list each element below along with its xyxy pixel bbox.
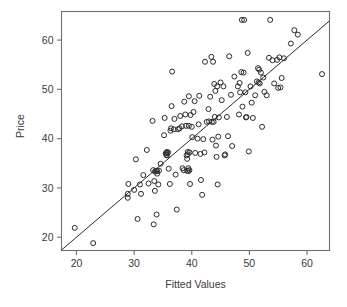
data-point	[219, 98, 224, 103]
data-point	[186, 94, 191, 99]
data-point	[288, 41, 293, 46]
data-point	[196, 122, 201, 127]
data-point	[245, 50, 250, 55]
data-point	[210, 137, 215, 142]
data-point	[156, 182, 161, 187]
data-point	[226, 134, 231, 139]
data-point	[203, 59, 208, 64]
data-point	[260, 124, 265, 129]
data-point	[201, 137, 206, 142]
data-point	[240, 104, 245, 109]
y-tick-label: 60	[42, 34, 54, 46]
data-point	[166, 166, 171, 171]
data-point	[216, 134, 221, 139]
data-points	[72, 17, 324, 245]
data-point	[126, 181, 131, 186]
plot-canvas: 2030405060 2030405060 Fitted Values Pric…	[0, 0, 347, 307]
data-point	[162, 133, 167, 138]
x-tick-label: 50	[244, 257, 256, 269]
data-point	[213, 143, 218, 148]
data-point	[169, 104, 174, 109]
x-tick-label: 40	[186, 257, 198, 269]
y-axis-tick-labels: 2030405060	[42, 34, 54, 243]
data-point	[198, 178, 203, 183]
data-point	[253, 93, 258, 98]
y-tick-label: 40	[42, 132, 54, 144]
data-point	[152, 188, 157, 193]
data-point	[174, 207, 179, 212]
data-point	[224, 114, 229, 119]
data-point	[72, 225, 77, 230]
data-point	[295, 32, 300, 37]
x-axis-title: Fitted Values	[165, 278, 226, 290]
data-point	[292, 28, 297, 33]
y-axis-ticks	[57, 40, 62, 237]
y-tick-label: 30	[42, 182, 54, 194]
data-point	[182, 99, 187, 104]
data-point	[162, 115, 167, 120]
data-point	[206, 107, 211, 112]
data-point	[221, 84, 226, 89]
data-point	[170, 69, 175, 74]
data-point	[139, 191, 144, 196]
data-point	[228, 92, 233, 97]
data-point	[279, 76, 284, 81]
data-point	[209, 54, 214, 59]
data-point	[193, 150, 198, 155]
y-axis-title: Price	[14, 114, 26, 138]
data-point	[188, 112, 193, 117]
data-point	[320, 72, 325, 77]
data-point	[167, 181, 172, 186]
data-point	[191, 110, 196, 115]
data-point	[266, 55, 271, 60]
data-point	[227, 54, 232, 59]
data-point	[154, 212, 159, 217]
plot-frame	[62, 12, 330, 251]
x-tick-label: 60	[301, 257, 313, 269]
data-point	[133, 157, 138, 162]
data-point	[150, 118, 155, 123]
data-point	[215, 182, 220, 187]
x-tick-label: 30	[128, 257, 140, 269]
data-point	[230, 144, 235, 149]
data-point	[183, 112, 188, 117]
data-point	[211, 59, 216, 64]
reference-line	[62, 21, 330, 250]
data-point	[237, 112, 242, 117]
data-point	[232, 74, 237, 79]
data-point	[173, 172, 178, 177]
data-point	[208, 94, 213, 99]
scatter-plot-figure: 2030405060 2030405060 Fitted Values Pric…	[0, 0, 347, 307]
data-point	[249, 100, 254, 105]
data-point	[141, 173, 146, 178]
data-point	[272, 81, 277, 86]
data-point	[188, 181, 193, 186]
x-tick-label: 20	[71, 257, 83, 269]
data-point	[135, 216, 140, 221]
identity-line	[62, 21, 330, 250]
y-tick-label: 50	[42, 83, 54, 95]
data-point	[214, 154, 219, 159]
data-point	[178, 113, 183, 118]
data-point	[200, 192, 205, 197]
x-axis-ticks	[76, 251, 307, 256]
data-point	[246, 149, 251, 154]
y-tick-label: 20	[42, 231, 54, 243]
data-point	[195, 136, 200, 141]
data-point	[146, 181, 151, 186]
data-point	[172, 116, 177, 121]
data-point	[151, 222, 156, 227]
x-axis-tick-labels: 2030405060	[71, 257, 313, 269]
data-point	[250, 115, 255, 120]
data-point	[268, 17, 273, 22]
data-point	[91, 241, 96, 246]
data-point	[192, 99, 197, 104]
data-point	[238, 90, 243, 95]
data-point	[197, 93, 202, 98]
data-point	[144, 147, 149, 152]
